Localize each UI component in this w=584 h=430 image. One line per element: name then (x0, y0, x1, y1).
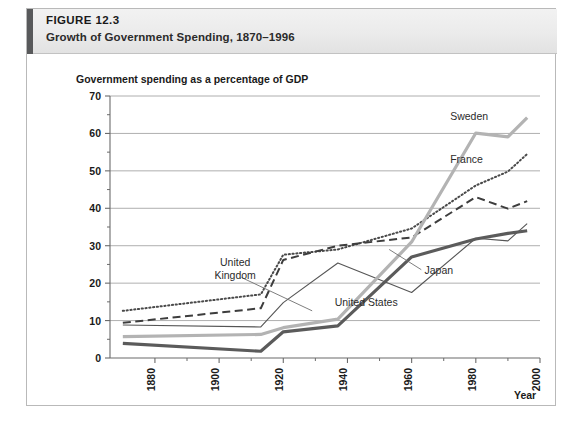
y-tick-label: 60 (89, 127, 101, 139)
line-chart-svg: 010203040506070 188019001920194019601980… (27, 9, 557, 407)
series-label: Sweden (450, 110, 488, 122)
x-axis-title: Year (514, 389, 536, 401)
y-tick-label: 50 (89, 165, 101, 177)
y-tick-label: 10 (89, 315, 101, 327)
gridlines (110, 96, 540, 321)
series-label: United (220, 256, 251, 268)
series-line (123, 154, 527, 311)
series-label: Japan (424, 264, 453, 276)
x-tick-label: 1880 (145, 368, 157, 392)
figure-card: FIGURE 12.3 Growth of Government Spendin… (26, 8, 556, 406)
series-line (123, 231, 527, 352)
series-label: Kingdom (214, 269, 256, 281)
y-axis-tick-labels: 010203040506070 (89, 90, 101, 364)
y-tick-label: 30 (89, 240, 101, 252)
series-label: France (450, 153, 483, 165)
x-axis-ticks (155, 358, 540, 363)
y-tick-label: 40 (89, 202, 101, 214)
y-tick-label: 20 (89, 277, 101, 289)
x-tick-label: 1980 (466, 368, 478, 392)
series-annotations: SwedenFranceUnitedKingdomJapanUnited Sta… (214, 110, 488, 307)
y-tick-label: 70 (89, 90, 101, 102)
y-tick-label: 0 (95, 352, 101, 364)
series-label: United States (335, 296, 398, 308)
chart-plot-area: 010203040506070 188019001920194019601980… (27, 9, 557, 407)
x-tick-label: 1900 (209, 368, 221, 392)
x-tick-label: 1920 (273, 368, 285, 392)
x-tick-label: 2000 (530, 368, 542, 392)
x-tick-label: 1940 (337, 368, 349, 392)
x-tick-label: 1960 (402, 368, 414, 392)
series-line (123, 224, 527, 327)
x-axis-tick-labels: 1880190019201940196019802000 (145, 368, 542, 392)
